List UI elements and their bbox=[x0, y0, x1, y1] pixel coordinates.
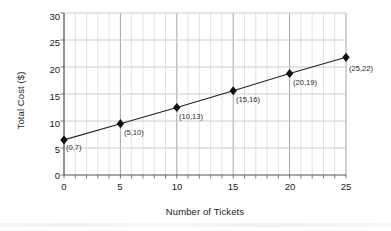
point-label: (10,13) bbox=[179, 112, 203, 121]
point-label: (15,16) bbox=[236, 95, 260, 104]
point-label: (5,10) bbox=[124, 128, 144, 137]
data-series-line bbox=[64, 57, 346, 140]
point-label: (0,7) bbox=[66, 143, 82, 152]
x-axis-minor-ticks bbox=[64, 175, 346, 179]
point-label: (20,19) bbox=[293, 78, 317, 87]
x-axis-title: Number of Tickets bbox=[64, 206, 346, 217]
y-axis-ticks bbox=[61, 13, 65, 175]
line-chart: Total Cost ($) 30 25 20 15 10 5 0 0 5 10… bbox=[0, 0, 391, 231]
point-label: (25,22) bbox=[349, 64, 373, 73]
